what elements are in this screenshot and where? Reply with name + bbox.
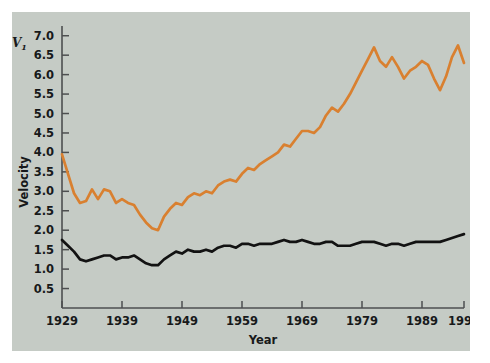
x-axis-ticks: 19291939194919591969197919891996 [46, 301, 470, 328]
y-tick-label: 6.5 [34, 48, 54, 62]
series-line-V1 [62, 45, 464, 230]
y-tick-label: 1.5 [34, 243, 54, 257]
y-tick-label: 1.0 [34, 262, 54, 276]
series-line-V2 [62, 234, 464, 265]
y-tick-label: 3.0 [34, 184, 54, 198]
x-tick-label: 1996 [448, 314, 470, 328]
y-tick-label: 5.0 [34, 107, 54, 121]
x-tick-label: 1969 [286, 314, 318, 328]
x-tick-label: 1939 [106, 314, 138, 328]
x-tick-label: 1959 [226, 314, 258, 328]
chart-page: 0.51.01.52.02.53.03.54.04.55.05.56.06.57… [0, 0, 490, 363]
x-tick-label: 1979 [346, 314, 378, 328]
series-label-subscript-V1: 1 [21, 42, 27, 52]
data-series-group [62, 45, 464, 265]
y-tick-label: 2.5 [34, 204, 54, 218]
y-tick-label: 6.0 [34, 68, 54, 82]
y-tick-label: 7.0 [34, 29, 54, 43]
y-axis-title: Velocity [17, 156, 31, 208]
y-tick-label: 3.5 [34, 165, 54, 179]
series-inline-labels: V1V2 [12, 36, 470, 237]
x-tick-label: 1989 [406, 314, 438, 328]
x-tick-label: 1929 [46, 314, 78, 328]
y-tick-label: 2.0 [34, 223, 54, 237]
x-axis-title: Year [248, 333, 278, 347]
chart-panel: 0.51.01.52.02.53.03.54.04.55.05.56.06.57… [12, 12, 470, 351]
y-tick-label: 4.5 [34, 126, 54, 140]
x-tick-label: 1949 [166, 314, 198, 328]
y-tick-label: 4.0 [34, 145, 54, 159]
y-tick-label: 0.5 [34, 282, 54, 296]
velocity-line-chart: 0.51.01.52.02.53.03.54.04.55.05.56.06.57… [12, 12, 470, 351]
series-label-V1: V1 [12, 36, 27, 52]
y-tick-label: 5.5 [34, 87, 54, 101]
